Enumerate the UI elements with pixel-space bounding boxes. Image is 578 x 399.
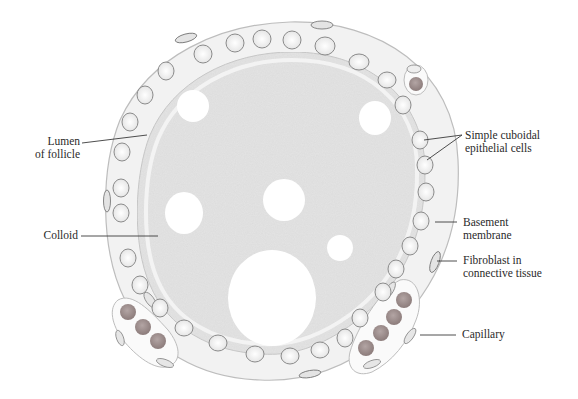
label-simple-cuboidal-epithelial-cells: Simple cuboidal epithelial cells (465, 129, 540, 155)
label-lumen-line2: of follicle (10, 148, 80, 161)
follicle-diagram: Lumen of follicle Colloid Simple cuboida… (0, 0, 578, 399)
label-basement-line1: Basement (463, 216, 512, 229)
label-lumen-line1: Lumen (10, 135, 80, 148)
capillary-top-right (404, 65, 428, 95)
label-fibroblast-line1: Fibroblast in (463, 254, 542, 267)
label-basement-line2: membrane (463, 229, 512, 242)
label-fibroblast-in-connective-tissue: Fibroblast in connective tissue (463, 254, 542, 280)
label-capillary-line1: Capillary (462, 328, 505, 341)
label-fibroblast-line2: connective tissue (463, 267, 542, 280)
label-capillary: Capillary (462, 328, 505, 341)
label-lumen-of-follicle: Lumen of follicle (10, 135, 80, 161)
label-cuboidal-line1: Simple cuboidal (465, 129, 540, 142)
label-cuboidal-line2: epithelial cells (465, 142, 540, 155)
label-colloid-line1: Colloid (10, 229, 78, 242)
label-basement-membrane: Basement membrane (463, 216, 512, 242)
label-colloid: Colloid (10, 229, 78, 242)
